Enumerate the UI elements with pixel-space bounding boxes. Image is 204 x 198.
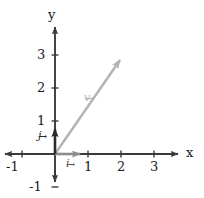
y-axis-label: y: [48, 8, 55, 21]
y-tick-label-3: 3: [37, 48, 45, 61]
y-tick-label-1: 1: [37, 114, 45, 127]
y-tick-label-2: 2: [37, 81, 45, 94]
x-tick-label-1: 1: [84, 160, 92, 173]
vector-j-label: → j: [38, 130, 47, 141]
vector-diagram: x y 3 2 1 -1 -1 1 2 3 → v → i → j: [0, 0, 204, 198]
x-tick-label-3: 3: [150, 160, 158, 173]
vector-i-label: → i: [66, 158, 75, 169]
x-tick-label--1: -1: [6, 160, 19, 173]
x-tick-label-2: 2: [117, 160, 125, 173]
y-tick-label--1: -1: [29, 180, 42, 193]
x-axis-label: x: [186, 146, 193, 159]
vector-v-label: → v: [84, 92, 93, 103]
coordinate-plane-svg: [0, 0, 204, 198]
vector-v-arrow: [55, 60, 120, 154]
